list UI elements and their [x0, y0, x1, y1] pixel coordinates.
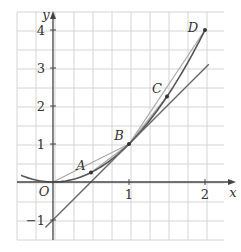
y-tick-label: 1: [37, 137, 45, 152]
point-c: [165, 95, 169, 99]
grid: [17, 12, 224, 240]
tangent-diagram: xyO12−11234 ABCD: [0, 0, 241, 252]
point-b: [127, 142, 131, 146]
y-axis-label: y: [41, 7, 50, 22]
points: ABCD: [75, 20, 207, 175]
x-axis-label: x: [229, 185, 237, 200]
x-tick-label: 2: [201, 187, 209, 202]
secant-line: [129, 30, 205, 144]
tangent-line: [45, 64, 208, 227]
point-label-c: C: [152, 81, 162, 96]
point-d: [203, 28, 207, 32]
y-tick-label: 2: [37, 99, 45, 114]
x-tick-label: 1: [125, 187, 133, 202]
point-a: [89, 171, 93, 175]
point-label-d: D: [187, 20, 199, 35]
secant-line: [53, 144, 129, 182]
y-tick-label: −1: [26, 213, 45, 228]
tangent-path: [45, 64, 208, 227]
origin-label: O: [39, 184, 50, 199]
y-tick-label: 3: [37, 61, 45, 76]
y-tick-label: 4: [37, 23, 45, 38]
axes: xyO12−11234: [17, 7, 237, 240]
point-label-a: A: [75, 158, 85, 173]
secant-line: [91, 144, 129, 173]
point-label-b: B: [113, 128, 124, 143]
